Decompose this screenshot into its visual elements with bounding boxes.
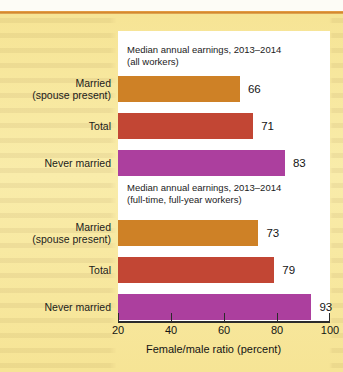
bar-value-married-all: 66 [248,83,261,95]
bar-row-married-all: 66 [118,76,330,102]
subchart-title-all-workers: Median annual earnings, 2013–2014 (all w… [127,44,281,68]
page-top-margin [0,0,343,11]
bar-married-all [118,76,240,102]
subchart-all-workers: Median annual earnings, 2013–2014 (all w… [118,31,330,169]
bar-value-total-all: 71 [261,120,274,132]
x-axis-tick-label-80: 80 [271,324,283,336]
bar-row-total-all: 71 [118,113,330,139]
category-label-never-married-fulltime: Never married [44,301,111,313]
bar-value-total-fulltime: 79 [282,264,295,276]
bar-value-married-fulltime: 73 [266,227,279,239]
x-axis-title-text: Female/male ratio (percent) [146,343,281,355]
x-axis-tick-40 [171,313,172,322]
bar-total-all [118,113,253,139]
x-axis-tick-80 [277,313,278,322]
bar-value-never-married-all: 83 [293,157,306,169]
bar-row-married-fulltime: 73 [118,220,330,246]
x-axis-tick-label-60: 60 [218,324,230,336]
chart-plot-area: Median annual earnings, 2013–2014 (all w… [118,31,330,322]
bar-married-fulltime [118,220,258,246]
x-axis-tick-100 [329,313,330,322]
category-label-total-fulltime: Total [89,264,111,276]
x-axis-tick-label-100: 100 [321,324,339,336]
x-axis-tick-label-20: 20 [112,324,124,336]
category-label-total-all: Total [89,120,111,132]
category-label-married-fulltime: Married (spouse present) [32,221,111,246]
bar-total-fulltime [118,257,274,283]
category-axis-labels: Married (spouse present) Total Never mar… [0,31,118,322]
x-axis-ticks [118,312,330,322]
subchart-fulltime-workers: Median annual earnings, 2013–2014 (full-… [118,173,330,313]
bar-row-total-fulltime: 79 [118,257,330,283]
category-label-never-married-all: Never married [44,157,111,169]
x-axis-tick-20 [118,313,119,322]
x-axis-title: Female/male ratio (percent) [0,343,343,355]
subchart-title-fulltime-workers: Median annual earnings, 2013–2014 (full-… [127,182,281,206]
x-axis-tick-60 [224,313,225,322]
x-axis-tick-label-40: 40 [165,324,177,336]
category-label-married-all: Married (spouse present) [32,77,111,102]
